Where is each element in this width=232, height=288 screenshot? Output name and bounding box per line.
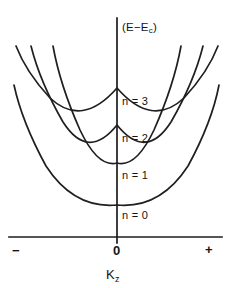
y-axis-label: (E−Ec) — [122, 22, 157, 34]
x-axis-label: Kz — [106, 268, 120, 281]
band-annotation-n3: n = 3 — [122, 96, 148, 107]
x-tick-zero: 0 — [113, 244, 120, 257]
band-annotation-n0: n = 0 — [122, 210, 148, 221]
band-annotation-n1: n = 1 — [122, 170, 148, 181]
x-axis-label-main: K — [106, 267, 115, 282]
x-tick-plus: + — [205, 243, 213, 256]
band-annotation-n2: n = 2 — [122, 133, 148, 144]
band-diagram-figure: (E−Ec) n = 3 n = 2 n = 1 n = 0 − 0 + Kz — [0, 0, 232, 288]
y-axis-label-close: ) — [153, 21, 157, 33]
y-axis-label-main: (E−E — [122, 21, 149, 33]
x-axis-label-subscript: z — [115, 274, 120, 284]
x-tick-minus: − — [12, 244, 20, 257]
y-axis-label-subscript: c — [149, 26, 153, 35]
